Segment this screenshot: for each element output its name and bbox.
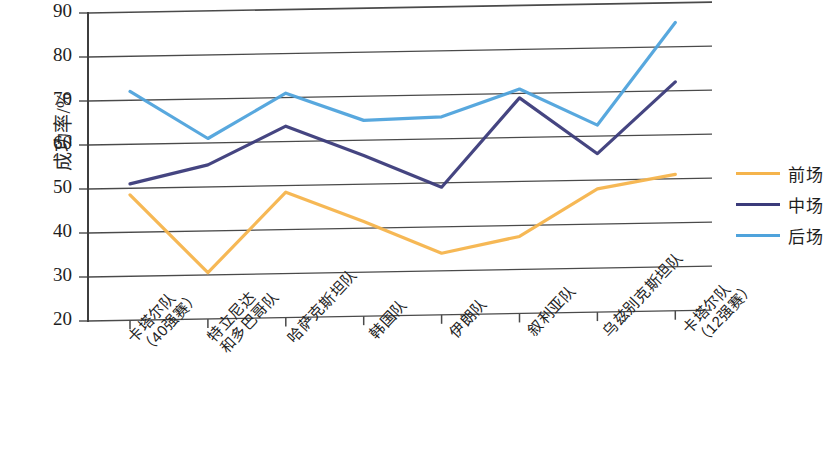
legend-item[interactable]: 中场 — [736, 189, 832, 220]
legend-label: 中场 — [788, 192, 824, 217]
gridline — [88, 2, 712, 13]
line-chart: 成功率/% 9080706050403020 卡塔尔队（40强赛）特立尼达和多巴… — [0, 0, 836, 457]
chart-legend: 前场中场后场 — [736, 158, 832, 251]
legend-item[interactable]: 前场 — [736, 158, 832, 189]
legend-label: 后场 — [788, 223, 824, 248]
gridline — [88, 46, 712, 57]
legend-color-swatch — [736, 234, 780, 237]
legend-color-swatch — [736, 172, 780, 175]
legend-label: 前场 — [788, 161, 824, 186]
legend-color-swatch — [736, 203, 780, 206]
series-line-后场 — [130, 23, 675, 139]
legend-item[interactable]: 后场 — [736, 220, 832, 251]
gridline — [88, 266, 712, 277]
gridline — [88, 222, 712, 233]
plot-area — [0, 0, 836, 457]
